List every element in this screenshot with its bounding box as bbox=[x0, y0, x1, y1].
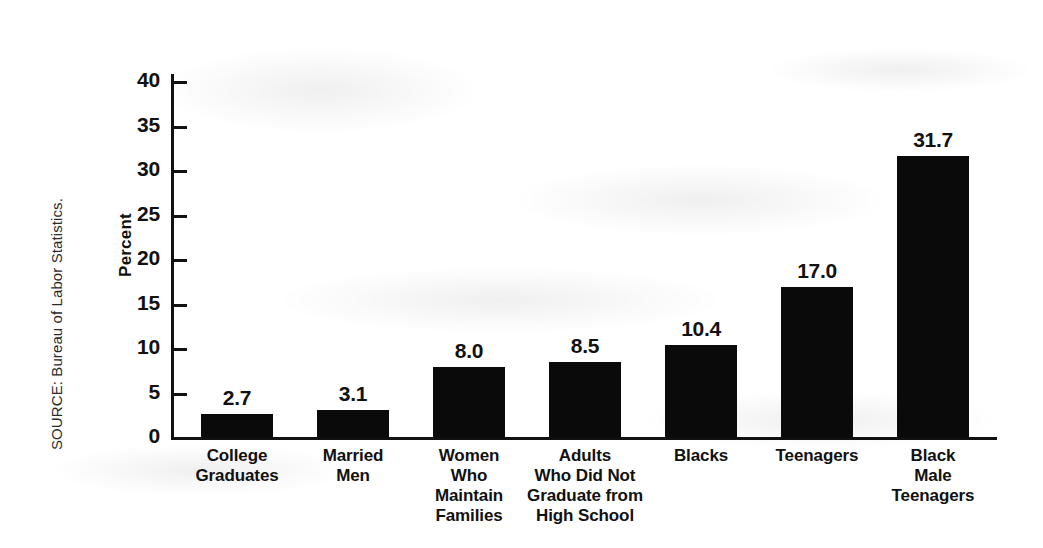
bar-category-label-line: Families bbox=[408, 506, 530, 526]
bar-category-label: MarriedMen bbox=[292, 446, 414, 486]
y-axis-line bbox=[171, 74, 174, 440]
y-axis-tick-mark bbox=[174, 126, 187, 129]
y-axis-tick-label: 40 bbox=[118, 68, 160, 92]
y-axis-tick-mark bbox=[174, 170, 187, 173]
y-axis-tick-label: 25 bbox=[118, 202, 160, 226]
bar-category-label-line: College bbox=[176, 446, 298, 466]
bar-category-label-line: Women bbox=[408, 446, 530, 466]
bar-category-label-line: Adults bbox=[524, 446, 646, 466]
bar-category-label: Teenagers bbox=[756, 446, 878, 466]
bar-category-label: BlackMaleTeenagers bbox=[872, 446, 994, 506]
bar-category-label-line: Married bbox=[292, 446, 414, 466]
bar-category-label: CollegeGraduates bbox=[176, 446, 298, 486]
bar bbox=[897, 156, 969, 438]
bar-category-label-line: Who Did Not bbox=[524, 466, 646, 486]
y-axis-tick-label: 0 bbox=[118, 424, 160, 448]
y-axis-tick-label: 15 bbox=[118, 291, 160, 315]
bar-category-label: Blacks bbox=[640, 446, 762, 466]
y-axis-tick-mark bbox=[174, 259, 187, 262]
y-axis-tick-label: 20 bbox=[118, 246, 160, 270]
bar-value-label: 31.7 bbox=[878, 128, 988, 152]
bar-category-label-line: Male bbox=[872, 466, 994, 486]
bar bbox=[317, 410, 389, 438]
y-axis-tick-label: 10 bbox=[118, 335, 160, 359]
bar-value-label: 3.1 bbox=[298, 382, 408, 406]
bar-category-label: WomenWhoMaintainFamilies bbox=[408, 446, 530, 526]
bar-category-label-line: Graduate from bbox=[524, 486, 646, 506]
bar-category-label: AdultsWho Did NotGraduate fromHigh Schoo… bbox=[524, 446, 646, 526]
y-axis-tick-mark bbox=[174, 437, 187, 440]
y-axis-tick-mark bbox=[174, 215, 187, 218]
bar-category-label-line: Black bbox=[872, 446, 994, 466]
bar bbox=[781, 287, 853, 438]
y-axis-tick-label: 30 bbox=[118, 157, 160, 181]
y-axis-tick-label: 35 bbox=[118, 113, 160, 137]
bar-category-label-line: Graduates bbox=[176, 466, 298, 486]
plot-area: Percent 0510152025303540 2.7CollegeGradu… bbox=[0, 0, 1043, 548]
bar bbox=[665, 345, 737, 438]
bar-value-label: 8.5 bbox=[530, 334, 640, 358]
bar-category-label-line: Blacks bbox=[640, 446, 762, 466]
bar-value-label: 2.7 bbox=[182, 386, 292, 410]
bar-category-label-line: Maintain bbox=[408, 486, 530, 506]
bar bbox=[433, 367, 505, 438]
chart-page: SOURCE: Bureau of Labor Statistics. Perc… bbox=[0, 0, 1043, 548]
bar-category-label-line: Teenagers bbox=[756, 446, 878, 466]
y-axis-tick-label: 5 bbox=[118, 380, 160, 404]
y-axis-tick-mark bbox=[174, 81, 187, 84]
bar-category-label-line: Men bbox=[292, 466, 414, 486]
bar-value-label: 10.4 bbox=[646, 317, 756, 341]
y-axis-tick-mark bbox=[174, 304, 187, 307]
bar bbox=[549, 362, 621, 438]
y-axis-tick-mark bbox=[174, 348, 187, 351]
bar bbox=[201, 414, 273, 438]
bar-category-label-line: Who bbox=[408, 466, 530, 486]
bar-value-label: 8.0 bbox=[414, 339, 524, 363]
bar-category-label-line: High School bbox=[524, 506, 646, 526]
bar-category-label-line: Teenagers bbox=[872, 486, 994, 506]
bar-value-label: 17.0 bbox=[762, 259, 872, 283]
